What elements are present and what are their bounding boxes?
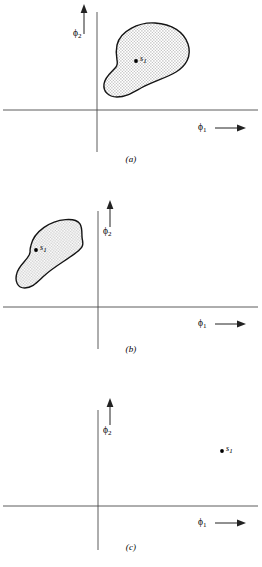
panel-b-region-center-dot [34, 248, 38, 252]
panel-a-caption: (a) [0, 154, 262, 164]
panel-c-x-axis-label: ϕ1 [198, 517, 207, 530]
panel-a-x-axis-label: ϕ1 [198, 122, 207, 135]
panel-c-plot [0, 378, 262, 567]
panel-a-region-center-dot [134, 59, 138, 63]
panel-a: ϕ2 ϕ1 s1 (a) [0, 0, 262, 189]
panel-b-caption: (b) [0, 344, 262, 354]
panel-c-y-axis-label: ϕ2 [103, 425, 112, 438]
panel-c-x-arrow-icon [215, 520, 246, 527]
panel-c-caption: (c) [0, 542, 262, 552]
panel-b-x-arrow-icon [215, 321, 246, 328]
panel-b-x-axis-label: ϕ1 [198, 318, 207, 331]
panel-b-y-arrow-icon [107, 200, 114, 227]
panel-b: ϕ2 ϕ1 s1 (b) [0, 189, 262, 378]
panel-c-y-arrow-icon [107, 398, 114, 425]
panel-a-x-arrow-icon [215, 125, 246, 132]
figure-root: ϕ2 ϕ1 s1 (a) [0, 0, 262, 567]
panel-c: ϕ2 ϕ1 s1 (c) [0, 378, 262, 567]
panel-a-region-label: s1 [140, 55, 147, 65]
panel-a-y-axis-label: ϕ2 [73, 28, 82, 41]
panel-a-y-arrow-icon [81, 4, 88, 34]
panel-c-region-label: s1 [226, 445, 233, 455]
panel-b-region-label: s1 [40, 244, 47, 254]
panel-b-y-axis-label: ϕ2 [103, 226, 112, 239]
panel-c-region-center-dot [220, 449, 224, 453]
panel-b-region-blob [9, 218, 89, 290]
